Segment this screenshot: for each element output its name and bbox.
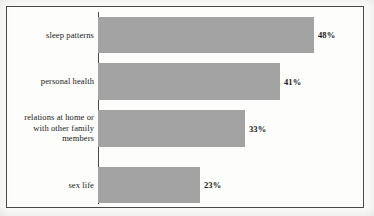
category-label-line: with other family	[0, 123, 94, 134]
category-label-line: sex life	[0, 180, 94, 191]
value-label: 33%	[249, 124, 266, 134]
category-label-line: personal health	[0, 76, 94, 87]
category-label-line: relations at home or	[0, 112, 94, 123]
value-label: 48%	[318, 30, 335, 40]
bar	[98, 110, 245, 147]
value-label: 23%	[204, 180, 221, 190]
category-label: sleep patterns	[0, 30, 94, 41]
bar-chart: sleep patterns48%personal health41%relat…	[0, 0, 374, 216]
category-label: sex life	[0, 180, 94, 191]
bar	[98, 167, 200, 203]
category-label: relations at home orwith other familymem…	[0, 112, 94, 144]
bar	[98, 17, 314, 53]
value-label: 41%	[284, 77, 301, 87]
category-label-line: sleep patterns	[0, 30, 94, 41]
category-label-line: members	[0, 133, 94, 144]
bar	[98, 63, 280, 100]
category-label: personal health	[0, 76, 94, 87]
